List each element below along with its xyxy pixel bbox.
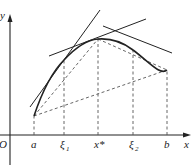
x-axis-label: x (183, 138, 189, 150)
y-axis-label: y (0, 9, 5, 21)
function-curve (34, 39, 167, 116)
chord-a-xstar (34, 39, 98, 116)
tick-label-b: b (164, 138, 170, 150)
origin-label: O (0, 138, 7, 150)
tick-sub-xi2: 2 (135, 145, 139, 153)
tick-label-xstar: x* (93, 138, 105, 150)
tick-label-a: a (31, 138, 37, 150)
tick-sub-xi1: 1 (66, 145, 70, 153)
tick-label-xi1: ξ (60, 138, 65, 151)
chord-xstar-b (98, 39, 167, 70)
tangent-steep (30, 10, 100, 107)
tick-label-xi2: ξ (129, 138, 134, 151)
mean-value-diagram: y x O a ξ 1 x* ξ 2 b (0, 0, 194, 166)
dashed-guides (34, 39, 167, 135)
chord-a-b (34, 70, 167, 116)
x-axis-arrow-icon (183, 133, 191, 138)
y-axis-arrow-icon (8, 14, 13, 22)
